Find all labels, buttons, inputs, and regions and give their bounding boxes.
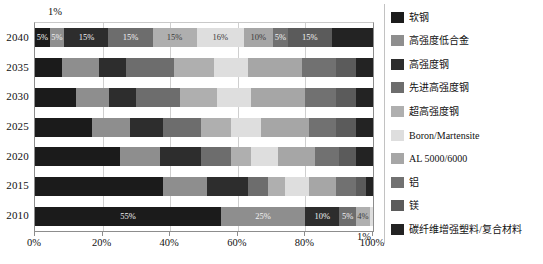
stacked-bars: 5%5%15%15%15%16%10%5%15%55%25%10%5%4% [35,23,373,231]
bar-segment [35,58,62,77]
plot-grid: 5%5%15%15%15%16%10%5%15%55%25%10%5%4% [34,22,374,232]
legend-item[interactable]: 镁 [391,199,419,213]
legend-item[interactable]: 软钢 [391,10,429,24]
bar-value-label: 10% [314,212,330,221]
legend-label: 超高强度钢 [409,106,459,117]
y-axis-label: 2035 [6,61,29,73]
bar-segment: 25% [221,207,306,226]
bar-segment [309,177,336,196]
legend-swatch [391,59,404,70]
chart-root: 1% 2040203520302025202020152010 5%5%15%1… [0,0,543,264]
legend-item[interactable]: 超高强度钢 [391,104,459,118]
bar-segment [207,177,248,196]
legend-swatch [391,224,404,235]
legend-item[interactable]: 高强度钢 [391,57,449,71]
legend-swatch [391,177,404,188]
bar-value-label: 4% [357,212,368,221]
bar-segment: 15% [108,28,152,47]
plot-area: 1% 2040203520302025202020152010 5%5%15%1… [0,0,375,264]
bar-segment: 5% [339,207,356,226]
legend-item[interactable]: Boron/Martensite [391,128,480,142]
bar-segment [356,147,373,166]
legend-label: 碳纤维增强塑料/复合材料 [409,224,522,235]
y-axis-label: 2015 [6,179,29,191]
bar-segment: 15% [64,28,108,47]
bar-segment: 55% [35,207,221,226]
bar-segment [35,88,76,107]
bar-segment [315,147,339,166]
bar-segment: 4% [356,207,370,226]
legend-label: AL 5000/6000 [409,153,467,164]
bar-segment [174,58,215,77]
legend: 软钢高强度低合金高强度钢先进高强度钢超高强度钢Boron/MartensiteA… [384,4,543,244]
bar-row [35,118,373,137]
bar-value-label: 5% [342,212,353,221]
bar-segment [201,118,231,137]
legend-label: Boron/Martensite [409,130,480,141]
bar-segment [356,118,373,137]
bar-segment [302,58,336,77]
x-axis-tick [237,232,238,236]
annotation-right: 1% [357,231,371,242]
bar-segment [130,118,164,137]
x-axis-tick [372,232,373,236]
bar-row [35,147,373,166]
bar-segment [356,58,373,77]
bar-segment [336,177,356,196]
bar-row [35,58,373,77]
legend-item[interactable]: AL 5000/6000 [391,152,467,166]
bar-segment [251,147,278,166]
legend-label: 铝 [409,177,419,188]
legend-label: 高强度钢 [409,59,449,70]
x-axis-label: 80% [295,237,314,248]
bar-segment: 16% [197,28,244,47]
bar-value-label: 55% [120,212,136,221]
x-axis-tick [169,232,170,236]
bar-segment [356,177,366,196]
bar-segment [231,118,261,137]
y-axis-label: 2030 [6,90,29,102]
legend-item[interactable]: 高强度低合金 [391,34,469,48]
bar-segment [285,177,309,196]
legend-swatch [391,130,404,141]
bar-segment: 15% [153,28,197,47]
legend-label: 高强度低合金 [409,35,469,46]
legend-label: 镁 [409,200,419,211]
x-axis-tick [34,232,35,236]
bar-segment [35,177,163,196]
x-axis-tick [304,232,305,236]
bar-segment [261,118,308,137]
bar-segment: 15% [288,28,332,47]
bar-segment [309,118,336,137]
y-axis-label: 2020 [6,150,29,162]
x-axis-label: 20% [92,237,111,248]
bar-row [35,88,373,107]
y-axis-label: 2025 [6,120,29,132]
bar-segment [201,147,231,166]
bar-value-label: 5% [37,33,48,42]
bar-segment [268,177,285,196]
bar-segment [180,88,217,107]
legend-swatch [391,200,404,211]
bar-segment: 5% [50,28,65,47]
x-axis: 0%20%40%60%80%100% [34,232,374,258]
legend-swatch [391,12,404,23]
bar-segment [35,147,120,166]
bar-segment [120,147,161,166]
bar-segment: 10% [244,28,273,47]
y-axis-label: 2010 [6,209,29,221]
bar-row [35,177,373,196]
legend-swatch [391,82,404,93]
bar-segment [163,177,207,196]
legend-item[interactable]: 铝 [391,175,419,189]
legend-item[interactable]: 碳纤维增强塑料/复合材料 [391,222,522,236]
legend-item[interactable]: 先进高强度钢 [391,81,469,95]
bar-row: 5%5%15%15%15%16%10%5%15% [35,28,373,47]
bar-segment: 10% [305,207,339,226]
bar-segment [126,58,173,77]
legend-swatch [391,35,404,46]
bar-segment [99,58,126,77]
bar-segment [336,58,356,77]
bar-segment [109,88,136,107]
x-axis-label: 0% [27,237,41,248]
